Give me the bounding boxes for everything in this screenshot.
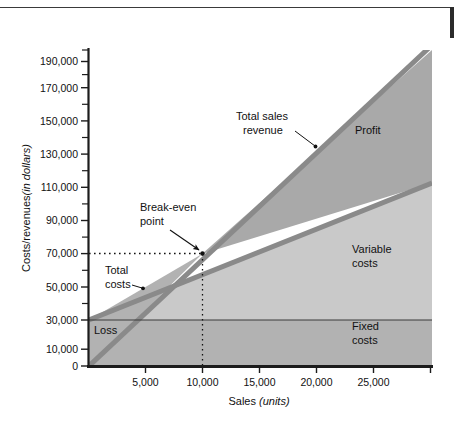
x-tick-label: 10,000 [186, 376, 218, 388]
x-tick-label: 20,000 [300, 376, 332, 388]
y-tick-label: 130,000 [40, 148, 78, 160]
x-axis-title-main: Sales [228, 395, 259, 407]
loss-region-label: Loss [94, 324, 118, 336]
y-axis-title-units: (in dollars) [20, 144, 32, 196]
variable-costs-label-line2: costs [352, 257, 378, 269]
annotation-break-even-point: Break-even point [140, 201, 205, 256]
y-axis-title-main: Costs/revenues [20, 195, 32, 272]
x-axis-title: Sales (units) [228, 395, 289, 407]
break-even-label-line2: point [140, 215, 164, 227]
y-tick-label: 170,000 [40, 82, 78, 94]
total-costs-leader-line [132, 285, 142, 288]
total-sales-revenue-leader-line [295, 131, 315, 146]
y-tick-label: 150,000 [40, 115, 78, 127]
total-sales-revenue-label-line2: revenue [243, 124, 283, 136]
break-even-chart-figure: 0 10,000 30,000 50,000 70,000 90,000 110… [0, 0, 467, 421]
y-tick-label: 10,000 [46, 343, 78, 355]
break-even-label-line1: Break-even [140, 201, 196, 213]
y-tick-label: 50,000 [46, 281, 78, 293]
total-sales-revenue-leader-dot [314, 145, 318, 149]
fixed-costs-label-line1: Fixed [352, 320, 379, 332]
x-tick-label: 15,000 [243, 376, 275, 388]
total-costs-label-line2: costs [105, 278, 131, 290]
y-tick-label: 70,000 [46, 247, 78, 259]
y-tick-label: 110,000 [41, 181, 78, 193]
y-tick-label: 190,000 [40, 55, 78, 67]
x-tick-label: 25,000 [357, 376, 389, 388]
total-costs-leader-dot [141, 286, 145, 290]
annotation-total-sales-revenue: Total sales revenue [236, 110, 317, 148]
total-costs-label-line1: Total [105, 264, 128, 276]
annotation-total-costs: Total costs [105, 264, 145, 290]
break-even-point-marker [200, 251, 204, 255]
fixed-costs-label-line2: costs [352, 334, 378, 346]
fixed-costs-region-fill [89, 320, 432, 366]
profit-region-label: Profit [355, 124, 381, 136]
variable-costs-label-line1: Variable [352, 243, 392, 255]
y-tick-label: 90,000 [46, 214, 78, 226]
y-tick-label: 0 [72, 360, 78, 372]
x-axis-tick-labels: 5,000 10,000 15,000 20,000 25,000 [132, 376, 389, 388]
x-axis-title-units: (units) [259, 395, 290, 407]
x-tick-label: 5,000 [132, 376, 158, 388]
break-even-chart-plot: 0 10,000 30,000 50,000 70,000 90,000 110… [0, 0, 467, 421]
y-tick-label: 30,000 [46, 314, 78, 326]
y-axis-title: Costs/revenues(in dollars) [20, 144, 32, 272]
total-sales-revenue-label-line1: Total sales [236, 110, 288, 122]
y-axis-tick-labels: 0 10,000 30,000 50,000 70,000 90,000 110… [40, 55, 78, 372]
break-even-arrow [170, 230, 199, 250]
y-axis-major-ticks [81, 62, 88, 367]
